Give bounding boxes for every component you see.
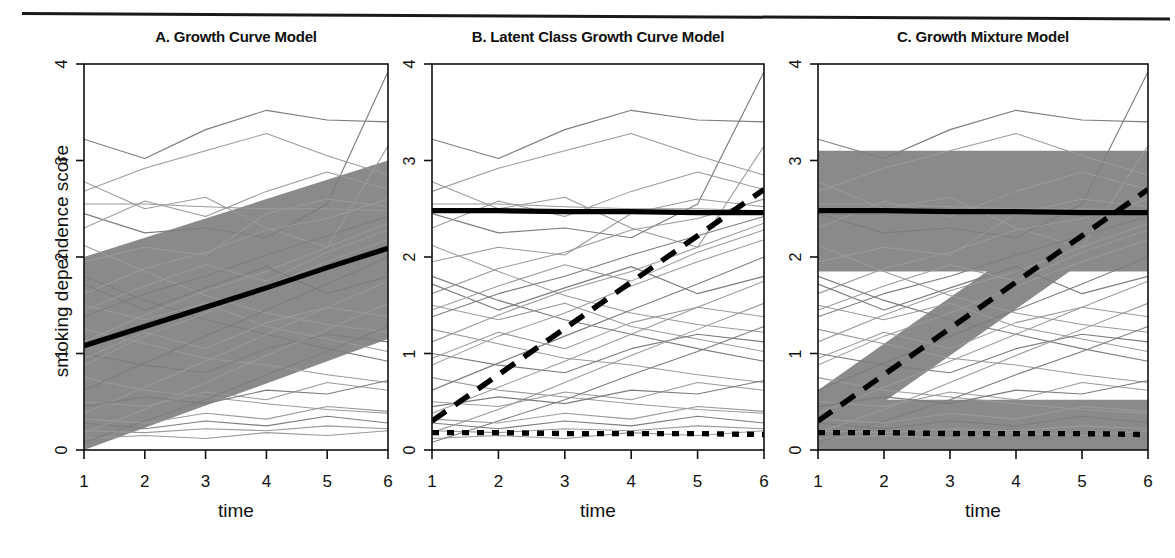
plot-panel-c [0,0,1175,558]
mean-trajectory [818,211,1148,213]
figure-root: smoking dependence score A. Growth Curve… [0,0,1175,558]
